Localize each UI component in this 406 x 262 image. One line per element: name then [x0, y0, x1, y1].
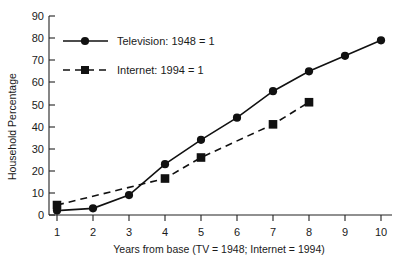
chart-container: Household Percentage 90 80 70 60 50 40 3 — [0, 0, 406, 262]
x-tick-label: 9 — [342, 226, 348, 238]
data-point-marker — [269, 87, 277, 95]
y-tick-label: 60 — [32, 76, 44, 88]
line-chart: Household Percentage 90 80 70 60 50 40 3 — [0, 0, 406, 262]
x-tick-label: 1 — [54, 226, 60, 238]
series-line — [57, 40, 381, 210]
series-television — [53, 36, 385, 214]
legend-label-television: Television: 1948 = 1 — [117, 35, 215, 47]
data-point-marker — [53, 201, 62, 210]
data-point-marker — [377, 36, 385, 44]
x-tick-label: 2 — [90, 226, 96, 238]
x-axis-title: Years from base (TV = 1948; Internet = 1… — [113, 243, 325, 255]
data-point-marker — [305, 98, 314, 107]
y-tick-label: 10 — [32, 187, 44, 199]
y-tick-label: 70 — [32, 54, 44, 66]
x-tick-label: 10 — [375, 226, 387, 238]
data-point-marker — [125, 191, 133, 199]
x-tick-label: 3 — [126, 226, 132, 238]
x-tick-label: 8 — [306, 226, 312, 238]
x-axis-ticks — [57, 215, 381, 221]
legend-item-internet[interactable]: Internet: 1994 = 1 — [63, 64, 204, 76]
data-point-marker — [233, 114, 241, 122]
y-tick-label: 90 — [32, 10, 44, 22]
legend: Television: 1948 = 1 Internet: 1994 = 1 — [63, 35, 215, 76]
y-tick-label: 0 — [38, 209, 44, 221]
y-tick-label: 40 — [32, 121, 44, 133]
data-point-marker — [305, 67, 313, 75]
series-line — [57, 102, 309, 205]
x-axis-tick-labels: 1 2 3 4 5 6 7 8 9 10 — [54, 226, 387, 238]
data-point-marker — [197, 153, 206, 162]
y-tick-label: 80 — [32, 32, 44, 44]
data-point-marker — [269, 120, 278, 129]
data-point-marker — [161, 174, 170, 183]
legend-marker-square-icon — [81, 66, 89, 74]
data-point-marker — [89, 204, 97, 212]
x-tick-label: 4 — [162, 226, 168, 238]
legend-label-internet: Internet: 1994 = 1 — [117, 64, 204, 76]
data-point-marker — [161, 160, 169, 168]
series-layer — [53, 36, 385, 214]
data-point-marker — [341, 52, 349, 60]
y-tick-label: 50 — [32, 99, 44, 111]
y-tick-label: 30 — [32, 143, 44, 155]
data-point-marker — [197, 136, 205, 144]
legend-item-television[interactable]: Television: 1948 = 1 — [63, 35, 215, 47]
y-axis-ticks — [49, 16, 55, 215]
series-internet — [53, 98, 314, 209]
x-tick-label: 7 — [270, 226, 276, 238]
y-tick-label: 20 — [32, 165, 44, 177]
legend-marker-circle-icon — [81, 37, 89, 45]
x-tick-label: 6 — [234, 226, 240, 238]
x-tick-label: 5 — [198, 226, 204, 238]
y-axis-title: Household Percentage — [6, 73, 18, 180]
y-axis-tick-labels: 90 80 70 60 50 40 30 20 10 0 — [32, 10, 44, 221]
